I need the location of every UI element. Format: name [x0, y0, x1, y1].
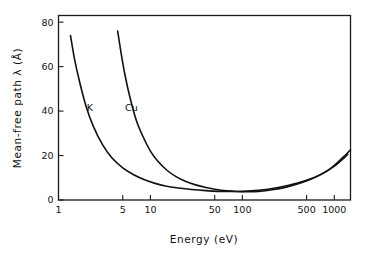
y-tick-label-0: 0 — [47, 194, 53, 205]
x-tick-label-50: 50 — [209, 204, 221, 215]
x-tick-label-500: 500 — [298, 204, 316, 215]
x-tick-label-1000: 1000 — [322, 204, 346, 215]
series-label-Cu: Cu — [125, 102, 138, 113]
series-label-K: K — [87, 102, 94, 113]
y-tick-label-40: 40 — [41, 105, 53, 116]
mean-free-path-chart: 1510501005001000 020406080 KCu Energy (e… — [0, 0, 368, 255]
x-tick-label-10: 10 — [144, 204, 156, 215]
x-axis-title: Energy (eV) — [170, 233, 239, 245]
y-tick-label-60: 60 — [41, 61, 53, 72]
y-axis-title: Mean-free path λ (Å) — [11, 48, 23, 169]
chart-background — [0, 0, 368, 255]
x-tick-label-1: 1 — [55, 204, 61, 215]
chart-figure: 1510501005001000 020406080 KCu Energy (e… — [0, 0, 368, 255]
y-tick-label-20: 20 — [41, 150, 53, 161]
x-tick-label-100: 100 — [233, 204, 251, 215]
x-tick-label-5: 5 — [120, 204, 126, 215]
y-tick-label-80: 80 — [41, 17, 53, 28]
